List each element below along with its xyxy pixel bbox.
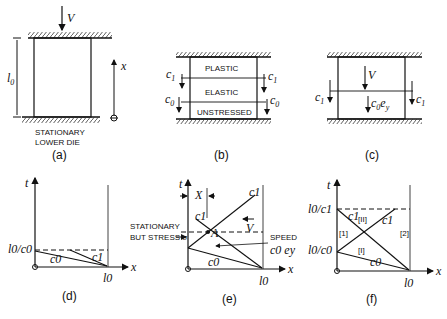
region-unstressed: UNSTRESSED <box>197 108 252 117</box>
x-tick-l0-f: l0 <box>404 276 413 290</box>
x-axis-label-f: x <box>435 264 442 278</box>
line-c0-label: c0 <box>50 252 61 266</box>
t-tick-l0-c1: l0/c1 <box>308 202 332 216</box>
line-c1-label-f-b: c1 <box>382 213 393 227</box>
panel-a: V l0 x STATIONARY LOWER DIE (a) <box>7 6 127 162</box>
x-tick-l0: l0 <box>103 271 112 285</box>
die-label-line1: STATIONARY <box>35 128 85 137</box>
line-c1-label: c1 <box>92 250 103 264</box>
speed-label: SPEED <box>270 233 297 242</box>
caption-e: (e) <box>222 292 237 306</box>
line-c1-label-e-a: c1 <box>195 209 206 223</box>
caption-f: (f) <box>366 292 377 306</box>
caption-c: (c) <box>365 148 379 162</box>
region-2: [2] <box>400 229 409 238</box>
region-plastic: PLASTIC <box>205 64 239 73</box>
region-I: [I] <box>358 246 365 255</box>
t-axis-label-f: t <box>327 178 331 192</box>
wave-c1-left-c: c1 <box>315 90 324 106</box>
wave-c0-right: c0 <box>270 93 279 109</box>
stationary-label: STATIONARY <box>130 222 180 231</box>
t-axis-label: t <box>25 176 29 190</box>
line-c1-label-f-a: c1 <box>348 209 359 223</box>
velocity-label-c: V <box>368 68 377 82</box>
caption-d: (d) <box>62 289 77 303</box>
caption-b: (b) <box>214 148 229 162</box>
region-1: [1] <box>339 229 348 238</box>
particle-speed-label: c0ey <box>371 96 390 112</box>
region-II: [II] <box>358 215 367 224</box>
x-axis-label: x <box>120 59 127 73</box>
x-axis-label-d: x <box>130 260 137 274</box>
velocity-label: V <box>67 11 76 25</box>
panel-e: t x A X V STATIONARY BUT STRESS σ SPEED … <box>130 177 297 306</box>
panel-d: t x l0/c0 l0 c0 c1 (d) <box>8 176 137 303</box>
wave-c1-right: c1 <box>268 69 277 85</box>
t-tick-l0-c0: l0/c0 <box>308 243 332 257</box>
wave-propagation-diagram: V l0 x STATIONARY LOWER DIE (a) PLASTIC … <box>0 0 447 319</box>
x-axis-label-e: x <box>287 262 294 276</box>
caption-a: (a) <box>52 148 67 162</box>
speed-value: c0 ey <box>270 243 296 257</box>
specimen <box>34 38 91 117</box>
length-label: l0 <box>7 71 14 87</box>
wave-c1-right-c: c1 <box>416 92 425 108</box>
line-c0-label-f: c0 <box>370 255 381 269</box>
wave-c1-left: c1 <box>166 67 175 83</box>
panel-f: t x l0/c1 l0/c0 l0 [1] [II] [2] [I] c0 c… <box>308 178 442 306</box>
wave-c0-left: c0 <box>165 92 174 108</box>
lower-die-hatch <box>22 117 100 123</box>
x-distance-label: X <box>194 188 203 202</box>
region-elastic: ELASTIC <box>205 88 239 97</box>
line-c1-label-e-b: c1 <box>249 185 260 199</box>
panel-b: PLASTIC ELASTIC UNSTRESSED c1 c1 c0 c0 (… <box>165 52 279 162</box>
point-a-label: A <box>210 226 219 240</box>
line-c0-label-e: c0 <box>208 255 219 269</box>
panel-c: V c1 c1 c0ey (c) <box>315 52 425 162</box>
v-label-e: V <box>246 221 255 235</box>
diagram-canvas: V l0 x STATIONARY LOWER DIE (a) PLASTIC … <box>0 0 447 319</box>
t-axis-label-e: t <box>179 177 183 191</box>
upper-die-hatch <box>28 32 112 38</box>
t-tick-l0-c0: l0/c0 <box>8 242 32 256</box>
die-label-line2: LOWER DIE <box>35 138 80 147</box>
point-a-marker <box>206 230 210 234</box>
x-tick-l0-e: l0 <box>259 274 268 288</box>
